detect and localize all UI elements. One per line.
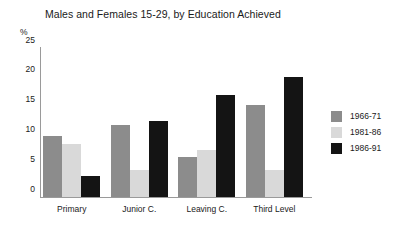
legend-label: 1981-86 — [350, 127, 381, 137]
x-axis-category-label: Leaving C. — [186, 204, 227, 214]
bar[interactable] — [43, 136, 62, 197]
legend-item[interactable]: 1986-91 — [331, 141, 381, 155]
bar-group: Junior C. — [111, 48, 168, 197]
y-axis-tick-label: 5 — [30, 154, 35, 163]
bar-group: Third Level — [246, 48, 303, 197]
legend-swatch-icon — [331, 127, 342, 138]
y-axis-tick-label: 0 — [30, 184, 35, 193]
bar[interactable] — [62, 144, 81, 197]
legend-swatch-icon — [331, 111, 342, 122]
legend-swatch-icon — [331, 143, 342, 154]
x-axis-category-label: Junior C. — [122, 204, 156, 214]
bar[interactable] — [284, 77, 303, 197]
legend-item[interactable]: 1981-86 — [331, 125, 381, 139]
bar[interactable] — [197, 150, 216, 197]
bar[interactable] — [149, 121, 168, 197]
bar[interactable] — [81, 176, 100, 197]
bar[interactable] — [265, 170, 284, 197]
legend-label: 1986-91 — [350, 143, 381, 153]
bar-group: Leaving C. — [178, 48, 235, 197]
y-axis-tick-label: 15 — [26, 95, 35, 104]
x-axis-line — [40, 197, 312, 198]
bar-chart: Males and Females 15-29, by Education Ac… — [0, 0, 403, 232]
x-axis-category-label: Third Level — [253, 204, 295, 214]
bar-group: Primary — [43, 48, 100, 197]
bar[interactable] — [178, 157, 197, 197]
y-axis-tick-label: 20 — [26, 65, 35, 74]
bar[interactable] — [111, 125, 130, 197]
chart-title: Males and Females 15-29, by Education Ac… — [45, 8, 281, 20]
x-axis-category-label: Primary — [57, 204, 86, 214]
legend-item[interactable]: 1966-71 — [331, 109, 381, 123]
bar[interactable] — [246, 105, 265, 197]
plot-area: 0510152025 PrimaryJunior C.Leaving C.Thi… — [40, 48, 310, 197]
y-axis-tick-label: 10 — [26, 125, 35, 134]
bar[interactable] — [130, 170, 149, 197]
y-axis-tick-label: 25 — [26, 35, 35, 44]
legend-label: 1966-71 — [350, 111, 381, 121]
chart-legend: 1966-711981-861986-91 — [331, 109, 381, 157]
bar[interactable] — [216, 95, 235, 197]
